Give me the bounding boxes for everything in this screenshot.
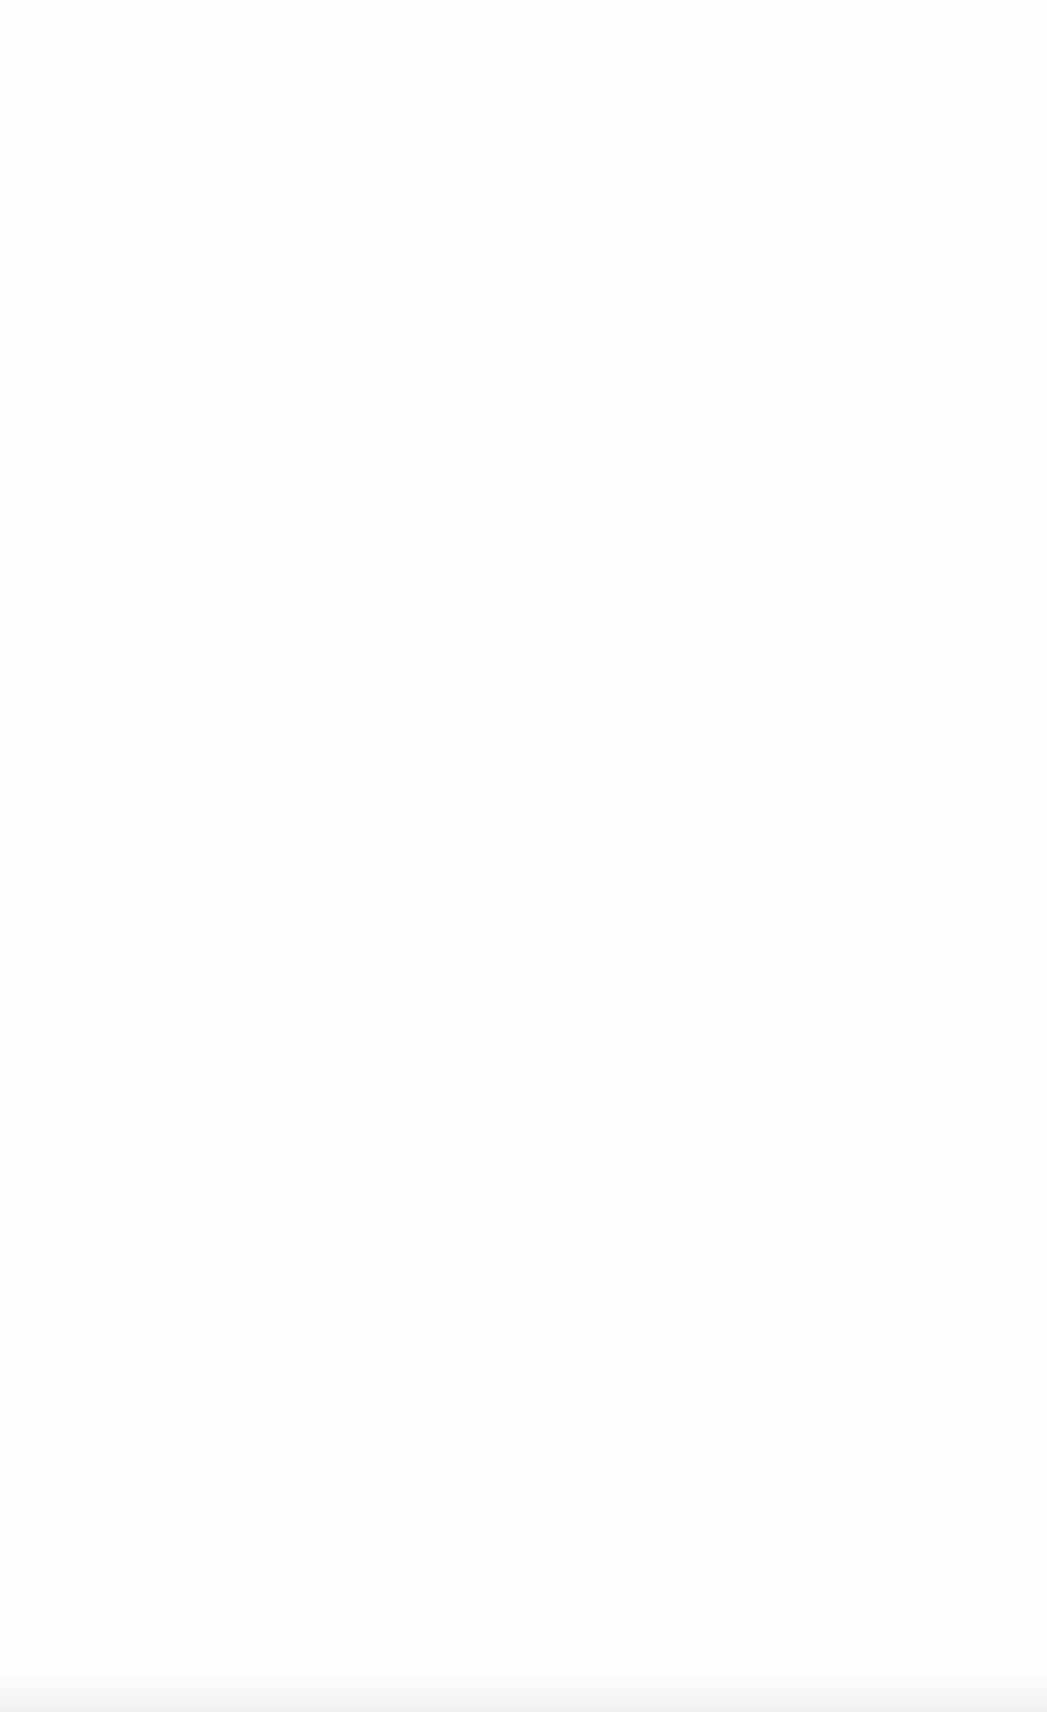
lined-paper-page bbox=[0, 0, 1047, 1712]
page-bottom-shadow bbox=[0, 1672, 1047, 1712]
